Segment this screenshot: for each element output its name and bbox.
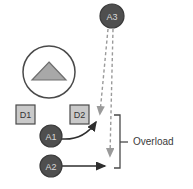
- overload-bracket: [114, 115, 128, 168]
- node-a2-label: A2: [45, 162, 56, 172]
- node-a1-label: A1: [45, 132, 56, 142]
- box-d2[interactable]: D2: [70, 105, 89, 124]
- sensor-node[interactable]: [23, 46, 75, 98]
- node-a3-label: A3: [106, 12, 117, 22]
- overload-label: Overload: [133, 136, 174, 147]
- box-d1-label: D1: [20, 110, 32, 120]
- diagram-svg: D1 D2 A3 A1 A2: [0, 0, 193, 189]
- box-d2-label: D2: [74, 110, 86, 120]
- node-a2[interactable]: A2: [40, 155, 62, 177]
- box-d1[interactable]: D1: [16, 105, 35, 124]
- node-a3[interactable]: A3: [100, 4, 124, 28]
- diagram-canvas: D1 D2 A3 A1 A2: [0, 0, 193, 189]
- node-a1[interactable]: A1: [40, 125, 62, 147]
- arrow-a3-to-upper: [100, 29, 108, 113]
- arrow-a3-to-lower: [110, 29, 113, 155]
